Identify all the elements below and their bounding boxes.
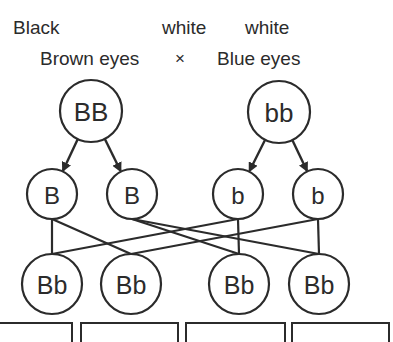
arrow-1-to-gamete-1 — [63, 139, 78, 170]
result-box-1 — [0, 322, 73, 342]
offspring-node-2-label: Bb — [116, 271, 147, 299]
gamete-node-4: b — [293, 169, 343, 219]
arrow-2-to-gamete-4 — [292, 140, 307, 171]
offspring-node-3: Bb — [209, 254, 269, 314]
meiosis-arrows — [63, 139, 307, 171]
gamete-node-1-label: B — [44, 182, 60, 209]
connection-line-2 — [52, 219, 131, 254]
offspring-node-1: Bb — [22, 254, 82, 314]
parent-node-1: BB — [60, 80, 122, 142]
result-box-2 — [80, 322, 179, 342]
offspring-node-2: Bb — [101, 254, 161, 314]
offspring-node-4: Bb — [289, 254, 349, 314]
gamete-node-1: B — [27, 169, 77, 219]
result-box-3 — [185, 322, 286, 342]
gamete-node-3-label: b — [231, 182, 244, 209]
connection-lines — [52, 219, 319, 254]
gamete-node-3: b — [213, 169, 263, 219]
offspring-node-1-label: Bb — [37, 271, 68, 299]
offspring-node-4-label: Bb — [304, 271, 335, 299]
gamete-node-2: B — [107, 169, 157, 219]
arrow-2-to-gamete-3 — [250, 140, 266, 171]
parent-node-2-label: bb — [265, 98, 294, 128]
connection-line-8 — [318, 219, 319, 254]
parent-node-1-label: BB — [74, 97, 109, 127]
gamete-node-2-label: B — [124, 182, 140, 209]
arrow-1-to-gamete-2 — [105, 139, 121, 171]
parent-node-2: bb — [248, 81, 310, 143]
gamete-node-4-label: b — [311, 182, 324, 209]
connection-line-6 — [238, 219, 239, 254]
result-box-4 — [291, 322, 390, 342]
offspring-node-3-label: Bb — [224, 271, 255, 299]
genotype-nodes: BBbbBBbbBbBbBbBb — [22, 80, 349, 314]
